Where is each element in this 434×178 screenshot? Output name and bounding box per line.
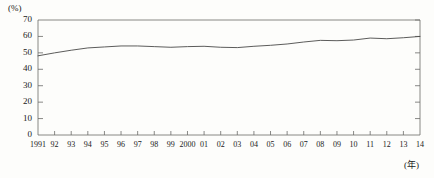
line-chart: (%) (年) 010203040506070 1991929394959697…: [0, 0, 434, 178]
tick-marks: [38, 20, 420, 135]
plot-area: [0, 0, 434, 178]
axes: [38, 20, 420, 135]
data-series-line: [38, 36, 420, 55]
